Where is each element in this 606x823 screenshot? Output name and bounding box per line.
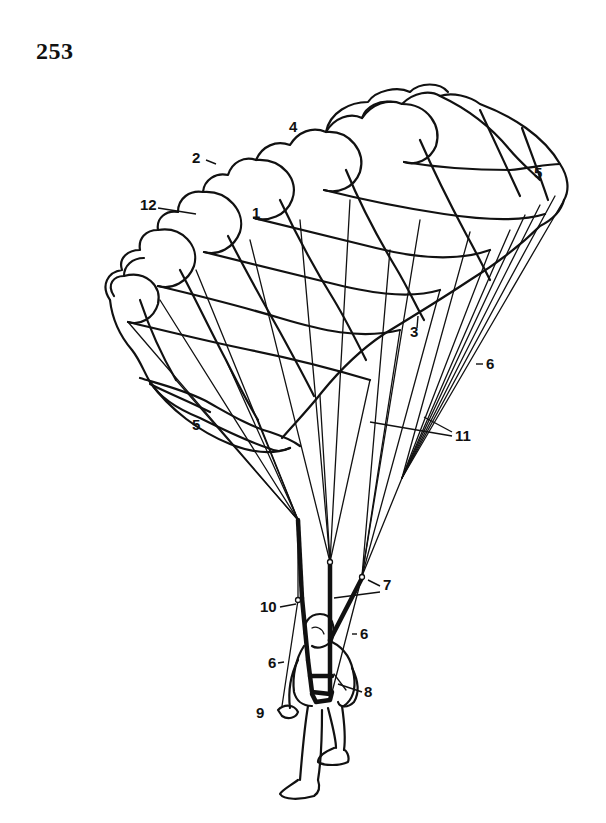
suspension-lines	[128, 196, 564, 706]
label-8: 8	[364, 683, 372, 700]
label-7: 7	[383, 576, 391, 593]
label-6-upper: 6	[486, 355, 494, 372]
label-10: 10	[260, 598, 277, 615]
label-12: 12	[140, 196, 157, 213]
label-6-right: 6	[360, 625, 368, 642]
label-11: 11	[455, 427, 471, 444]
label-4: 4	[289, 118, 298, 135]
canopy	[106, 85, 568, 453]
label-5-left: 5	[192, 416, 200, 433]
callout-labels: 1 2 3 4 5 5 6 6 6 7 8 9 10 11 12	[140, 118, 542, 721]
label-1: 1	[252, 204, 260, 221]
label-2: 2	[192, 149, 200, 166]
leader-lines	[158, 160, 483, 692]
label-6-left: 6	[268, 654, 276, 671]
label-9: 9	[256, 704, 264, 721]
label-3: 3	[410, 323, 418, 340]
canopy-seams	[124, 96, 560, 420]
label-5-right: 5	[534, 164, 542, 181]
parachute-diagram: 1 2 3 4 5 5 6 6 6 7 8 9 10 11 12	[0, 0, 606, 823]
